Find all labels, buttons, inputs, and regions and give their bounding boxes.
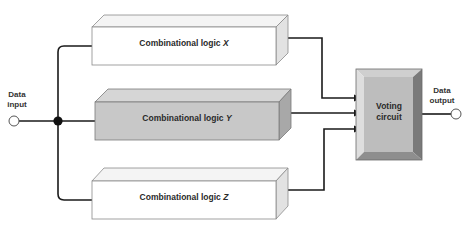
tmr-diagram: Data input Data output Combinational log… [0, 0, 474, 229]
module-z-label: Combinational logic Z [140, 192, 230, 202]
wire-x-to-voter [282, 38, 361, 98]
voter-bevel-right [413, 69, 422, 160]
input-terminal[interactable] [9, 116, 19, 126]
output-terminal[interactable] [451, 109, 461, 119]
voter-label-line1: Voting [376, 101, 402, 111]
input-label-line2: input [7, 100, 27, 109]
module-y-label: Combinational logic Y [142, 113, 233, 123]
output-label-line1: Data [433, 86, 451, 95]
voter-bevel-top [356, 69, 422, 77]
module-y[interactable]: Combinational logic Y [95, 89, 291, 140]
module-x-label: Combinational logic X [139, 38, 230, 48]
input-label-line1: Data [8, 90, 26, 99]
voting-circuit[interactable]: Voting circuit [356, 69, 422, 160]
voter-bevel-left [356, 69, 364, 160]
module-x[interactable]: Combinational logic X [92, 15, 288, 65]
output-label-line2: output [430, 96, 455, 105]
module-z-top [92, 168, 288, 181]
voter-label-line2: circuit [376, 112, 402, 122]
wire-fanout-x [58, 46, 92, 121]
wire-z-to-voter [282, 129, 361, 190]
module-y-top [95, 89, 291, 102]
wire-fanout-z [58, 121, 92, 200]
voter-bevel-bottom [356, 152, 422, 160]
module-z[interactable]: Combinational logic Z [92, 168, 288, 219]
module-x-top [92, 15, 288, 27]
fanout-junction [53, 116, 62, 125]
